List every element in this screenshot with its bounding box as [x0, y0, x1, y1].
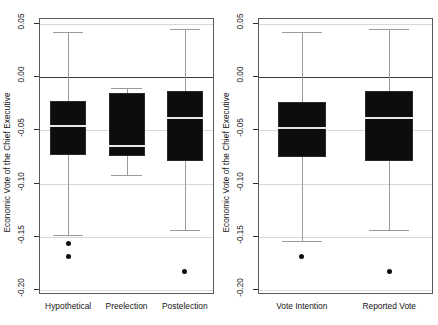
gridline-0.00 — [259, 77, 432, 78]
gridline--0.15 — [259, 237, 432, 238]
median-line — [109, 145, 145, 147]
y-tick-mark — [34, 289, 39, 290]
x-tick-label-reported-vote: Reported Vote — [362, 301, 416, 311]
outlier-point — [387, 269, 392, 274]
y-tick-mark — [34, 76, 39, 77]
box-vote-intention — [278, 102, 326, 157]
whisker-cap-upper — [111, 88, 141, 89]
whisker-cap-lower — [369, 230, 409, 231]
y-tick-mark — [34, 23, 39, 24]
median-line — [365, 117, 413, 119]
y-tick-label: -0.20 — [17, 275, 26, 299]
y-tick-mark — [253, 183, 258, 184]
y-tick-mark — [253, 289, 258, 290]
median-line — [278, 127, 326, 129]
box-hypothetical — [50, 101, 86, 155]
x-tick-label-hypothetical: Hypothetical — [45, 301, 91, 311]
gridline-0.05 — [40, 24, 213, 25]
gridline-0.00 — [40, 77, 213, 78]
whisker-cap-upper — [282, 32, 322, 33]
y-tick-mark — [253, 76, 258, 77]
x-tick-label-vote-intention: Vote Intention — [276, 301, 327, 311]
y-tick-label: -0.10 — [17, 169, 26, 193]
gridline--0.20 — [40, 290, 213, 291]
y-tick-mark — [34, 183, 39, 184]
y-tick-label: 0.05 — [17, 10, 26, 34]
gridline--0.10 — [259, 184, 432, 185]
whisker-cap-lower — [282, 241, 322, 242]
y-tick-mark — [253, 129, 258, 130]
whisker-cap-upper — [369, 29, 409, 30]
box-postelection — [167, 91, 203, 161]
panel-right: Economic Vote of the Chief Executive0.05… — [219, 0, 438, 325]
y-axis-title: Economic Vote of the Chief Executive — [0, 0, 14, 325]
x-tick-label-preelection: Preelection — [106, 301, 148, 311]
x-tick-label-postelection: Postelection — [162, 301, 208, 311]
gridline--0.15 — [40, 237, 213, 238]
whisker-cap-upper — [170, 29, 200, 30]
whisker-cap-lower — [53, 235, 83, 236]
gridline--0.20 — [259, 290, 432, 291]
whisker-cap-upper — [53, 32, 83, 33]
y-tick-label: 0.05 — [236, 10, 245, 34]
gridline-0.05 — [259, 24, 432, 25]
y-tick-mark — [253, 236, 258, 237]
median-line — [50, 125, 86, 127]
y-axis-title: Economic Vote of the Chief Executive — [219, 0, 233, 325]
panel-left: Economic Vote of the Chief Executive0.05… — [0, 0, 219, 325]
outlier-point — [66, 241, 71, 246]
y-tick-label: 0.00 — [17, 63, 26, 87]
y-tick-mark — [34, 236, 39, 237]
y-tick-label: -0.05 — [17, 116, 26, 140]
y-tick-mark — [253, 23, 258, 24]
boxplot-figure: Economic Vote of the Chief Executive0.05… — [0, 0, 438, 325]
whisker-cap-lower — [170, 230, 200, 231]
gridline--0.10 — [40, 184, 213, 185]
y-tick-label: 0.00 — [236, 63, 245, 87]
y-tick-label: -0.15 — [17, 222, 26, 246]
y-tick-label: -0.15 — [236, 222, 245, 246]
y-tick-label: -0.20 — [236, 275, 245, 299]
median-line — [167, 117, 203, 119]
y-tick-mark — [34, 129, 39, 130]
y-tick-label: -0.10 — [236, 169, 245, 193]
box-reported-vote — [365, 91, 413, 161]
whisker-cap-lower — [111, 175, 141, 176]
y-tick-label: -0.05 — [236, 116, 245, 140]
